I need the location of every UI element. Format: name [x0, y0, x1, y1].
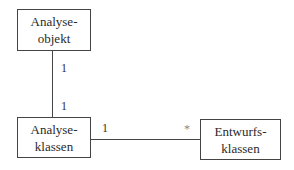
association-line-analyse-entwurf — [91, 139, 200, 140]
class-box-entwurfsklassen: Entwurfs- klassen — [200, 119, 281, 160]
class-name-line1: Entwurfs- — [215, 123, 267, 140]
class-name-line1: Analyse- — [31, 121, 78, 138]
class-name-line2: klassen — [221, 140, 259, 157]
class-name-line2: objekt — [38, 30, 71, 47]
multiplicity-label: * — [184, 123, 190, 135]
class-name-line1: Analyse- — [31, 13, 78, 30]
multiplicity-label: 1 — [102, 122, 108, 134]
class-box-analyseobjekt: Analyse- objekt — [17, 9, 91, 51]
multiplicity-label: 1 — [61, 100, 67, 112]
multiplicity-label: 1 — [61, 62, 67, 74]
association-line-objekt-klassen — [52, 51, 53, 117]
class-name-line2: klassen — [35, 138, 73, 155]
class-box-analyseklassen: Analyse- klassen — [17, 117, 91, 158]
